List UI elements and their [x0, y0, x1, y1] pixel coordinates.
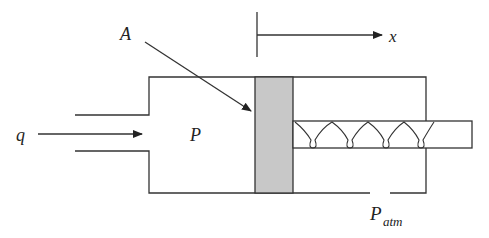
pressure-label: P [189, 125, 201, 145]
hydraulic-cylinder-diagram: x A q P P atm [0, 0, 489, 238]
displacement-indicator: x [257, 12, 397, 57]
patm-subscript: atm [383, 214, 403, 229]
atmospheric-pressure-label: P atm [369, 203, 403, 229]
cylinder-bottom-wall-left [75, 151, 370, 193]
flow-indicator: q [16, 125, 142, 145]
area-label: A [119, 24, 132, 44]
patm-main: P [369, 203, 382, 224]
flow-label: q [16, 125, 25, 145]
piston [255, 77, 293, 193]
cylinder-bottom-wall-right [390, 148, 426, 193]
area-indicator: A [119, 24, 251, 111]
x-label: x [388, 27, 397, 46]
cylinder-top-wall [75, 77, 426, 121]
